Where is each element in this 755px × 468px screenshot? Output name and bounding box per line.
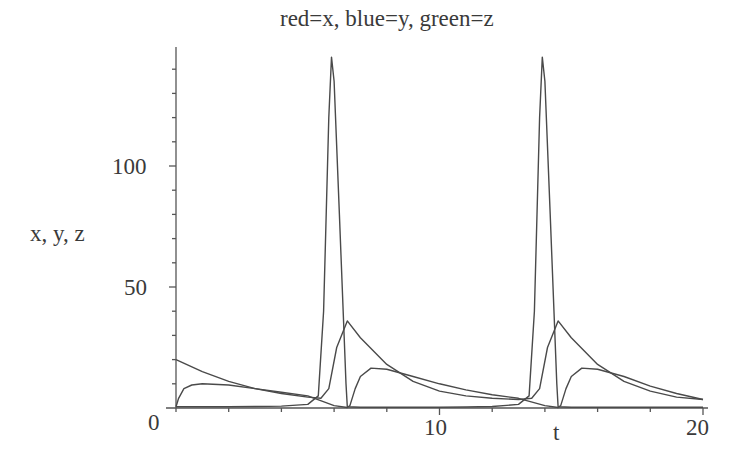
series-y-line bbox=[176, 321, 703, 400]
chart-title: red=x, blue=y, green=z bbox=[280, 6, 494, 32]
chart-root: red=x, blue=y, green=z x, y, z 100 50 0 … bbox=[0, 0, 755, 468]
x-axis-label: t bbox=[553, 420, 559, 446]
x-tick-20: 20 bbox=[686, 415, 709, 441]
series-x-line bbox=[176, 57, 703, 407]
x-tick-10: 10 bbox=[424, 415, 447, 441]
y-axis-label: x, y, z bbox=[30, 221, 85, 247]
series-z-line bbox=[176, 368, 703, 407]
y-tick-100: 100 bbox=[112, 154, 147, 180]
plot-area bbox=[0, 0, 755, 468]
y-tick-50: 50 bbox=[124, 275, 147, 301]
x-tick-0: 0 bbox=[148, 410, 160, 436]
